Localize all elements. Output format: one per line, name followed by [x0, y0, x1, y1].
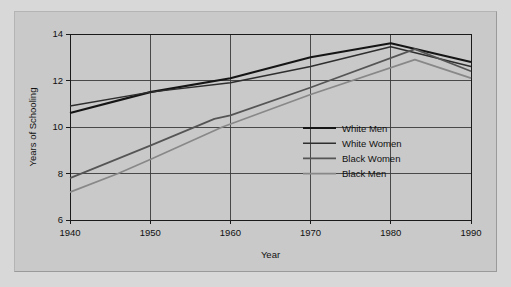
- x-tick-label: 1970: [300, 227, 321, 238]
- x-tick-label: 1940: [59, 227, 80, 238]
- x-tick-label: 1960: [220, 227, 241, 238]
- series-group: [70, 43, 471, 192]
- x-tick-labels-group: 194019501960197019801990: [59, 227, 481, 238]
- tick-marks-group: [66, 34, 471, 224]
- series-line-white-men: [70, 43, 471, 113]
- legend-label-white-men: White Men: [342, 123, 387, 134]
- y-tick-labels-group: 68101214: [52, 28, 63, 225]
- x-tick-label: 1990: [460, 227, 481, 238]
- gridlines-group: [70, 34, 471, 220]
- y-tick-label: 14: [52, 28, 63, 39]
- legend-label-black-women: Black Women: [342, 153, 400, 164]
- x-axis-title: Year: [261, 249, 280, 260]
- x-tick-label: 1980: [380, 227, 401, 238]
- y-tick-label: 12: [52, 75, 63, 86]
- line-chart: 68101214 194019501960197019801990 White …: [15, 12, 498, 273]
- y-tick-label: 8: [58, 168, 63, 179]
- x-tick-label: 1950: [140, 227, 161, 238]
- y-axis-title: Years of Schooling: [27, 88, 38, 167]
- chart-panel: 68101214 194019501960197019801990 White …: [14, 11, 497, 272]
- y-tick-label: 10: [52, 121, 63, 132]
- legend-label-white-women: White Women: [342, 138, 401, 149]
- series-line-black-men: [70, 60, 471, 193]
- y-tick-label: 6: [58, 214, 63, 225]
- legend-label-black-men: Black Men: [342, 168, 386, 179]
- figure-container: 68101214 194019501960197019801990 White …: [0, 0, 511, 287]
- legend: White MenWhite WomenBlack WomenBlack Men: [303, 123, 401, 180]
